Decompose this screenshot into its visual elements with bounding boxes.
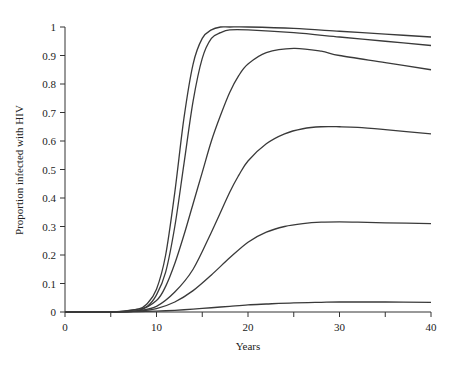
line-chart: 00.10.20.30.40.50.60.70.80.91 010203040 …: [0, 0, 456, 371]
series-curve-2: [65, 30, 431, 313]
y-tick-label: 0.9: [42, 50, 56, 62]
y-tick-label: 0.5: [42, 164, 56, 176]
series-curve-1: [65, 27, 431, 312]
x-tick-label: 0: [62, 321, 68, 333]
x-tick-label: 20: [243, 321, 255, 333]
y-tick-label: 0.1: [42, 278, 56, 290]
x-tick-label: 30: [334, 321, 346, 333]
y-tick-label: 0.2: [42, 249, 56, 261]
y-tick-label: 0.7: [42, 107, 56, 119]
y-tick-label: 0.4: [42, 192, 56, 204]
y-tick-label: 0.8: [42, 78, 56, 90]
y-tick-label: 0: [51, 306, 57, 318]
series-curve-4: [65, 127, 431, 313]
series-curve-5: [65, 222, 431, 312]
y-axis: 00.10.20.30.40.50.60.70.80.91: [42, 21, 65, 318]
x-axis: 010203040: [62, 312, 437, 333]
series-curve-6: [65, 302, 431, 312]
y-axis-title: Proportion infected with HIV: [13, 105, 25, 235]
series-curve-3: [65, 48, 431, 312]
y-tick-label: 0.3: [42, 221, 56, 233]
plot-area: [65, 27, 431, 312]
x-tick-label: 40: [426, 321, 438, 333]
y-tick-label: 0.6: [42, 135, 56, 147]
x-axis-title: Years: [236, 340, 261, 352]
y-tick-label: 1: [51, 21, 57, 33]
x-tick-label: 10: [151, 321, 163, 333]
